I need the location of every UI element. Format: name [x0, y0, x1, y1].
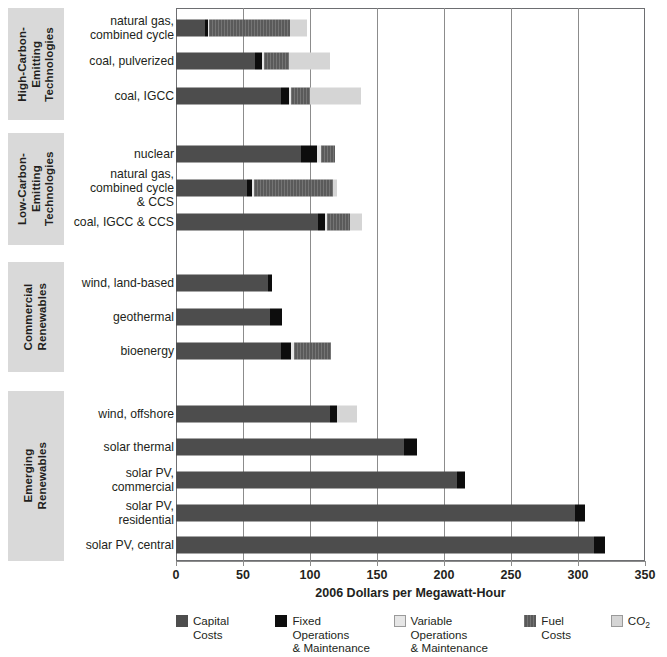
- bar: [176, 180, 337, 197]
- gridline: [578, 8, 579, 561]
- category-label: coal, IGCC & CCS: [14, 215, 174, 229]
- plot-area: [176, 8, 645, 561]
- x-axis-tick: [578, 561, 579, 566]
- chart-root: High-Carbon- Emitting TechnologiesLow-Ca…: [0, 0, 667, 657]
- bar-segment-capital-costs: [176, 180, 247, 197]
- bar: [176, 309, 282, 326]
- x-axis-tick: [444, 561, 445, 566]
- legend-item[interactable]: CO2: [611, 614, 650, 630]
- bar: [176, 275, 272, 292]
- x-axis-tick-label: 100: [300, 568, 321, 582]
- bar-segment-co2: [290, 20, 307, 37]
- bar: [176, 439, 417, 456]
- bar-segment-fixed-om: [575, 505, 584, 522]
- bar: [176, 88, 361, 105]
- bar-segment-capital-costs: [176, 343, 281, 360]
- legend-item[interactable]: Fixed Operations & Maintenance: [275, 614, 376, 655]
- category-label-column: natural gas, combined cyclecoal, pulveri…: [8, 0, 174, 560]
- category-label: coal, IGCC: [14, 89, 174, 103]
- legend-swatch-fuel: [524, 615, 536, 627]
- bar: [176, 20, 307, 37]
- category-label: bioenergy: [14, 344, 174, 358]
- x-axis-tick-label: 350: [635, 568, 656, 582]
- bar-segment-capital-costs: [176, 88, 281, 105]
- legend-swatch-capital: [176, 615, 188, 627]
- bar-segment-fixed-om: [281, 343, 292, 360]
- legend-swatch-co2: [611, 615, 623, 627]
- x-axis-tick: [176, 561, 177, 566]
- bar: [176, 53, 330, 70]
- category-label: solar PV, commercial: [14, 466, 174, 494]
- bar-segment-fuel-costs: [209, 20, 289, 37]
- category-label: geothermal: [14, 310, 174, 324]
- bar-segment-fuel-costs: [264, 53, 288, 70]
- bar-segment-capital-costs: [176, 275, 268, 292]
- gridline: [511, 8, 512, 561]
- legend-item[interactable]: Capital Costs: [176, 614, 258, 641]
- x-axis-tick: [377, 561, 378, 566]
- bar-segment-co2: [337, 406, 357, 423]
- legend-label: CO2: [628, 614, 650, 630]
- bar-segment-fuel-costs: [291, 88, 310, 105]
- x-axis-tick-label: 250: [501, 568, 522, 582]
- bar: [176, 406, 357, 423]
- bar: [176, 214, 362, 231]
- legend-label: Capital Costs: [193, 614, 258, 641]
- bar-segment-co2: [310, 88, 361, 105]
- bar-segment-fuel-costs: [327, 214, 350, 231]
- bar: [176, 472, 465, 489]
- bar-segment-fuel-costs: [254, 180, 333, 197]
- x-axis-tick-label: 200: [434, 568, 455, 582]
- x-axis: 050100150200250300350: [176, 561, 645, 562]
- bar-segment-fixed-om: [268, 275, 272, 292]
- legend-label: Fixed Operations & Maintenance: [292, 614, 376, 655]
- legend-swatch-vom: [394, 615, 406, 627]
- bar: [176, 146, 335, 163]
- category-label: solar PV, residential: [14, 499, 174, 527]
- x-axis-tick: [243, 561, 244, 566]
- bar-segment-fixed-om: [404, 439, 417, 456]
- x-axis-title: 2006 Dollars per Megawatt-Hour: [176, 586, 645, 600]
- bar-segment-fixed-om: [457, 472, 465, 489]
- category-label: nuclear: [14, 147, 174, 161]
- bar-segment-co2: [350, 214, 362, 231]
- bar-segment-capital-costs: [176, 309, 270, 326]
- x-axis-tick: [310, 561, 311, 566]
- bar: [176, 343, 331, 360]
- bar-segment-capital-costs: [176, 472, 457, 489]
- bar-segment-capital-costs: [176, 146, 301, 163]
- bar-segment-capital-costs: [176, 214, 318, 231]
- bar-segment-capital-costs: [176, 439, 404, 456]
- bar-segment-capital-costs: [176, 20, 205, 37]
- bar: [176, 505, 585, 522]
- bar-segment-fixed-om: [301, 146, 317, 163]
- bar-segment-fuel-costs: [294, 343, 332, 360]
- legend: Capital CostsFixed Operations & Maintena…: [176, 614, 667, 655]
- bar-segment-fixed-om: [281, 88, 289, 105]
- category-label: solar PV, central: [14, 538, 174, 552]
- bar-segment-fixed-om: [318, 214, 325, 231]
- x-axis-tick: [511, 561, 512, 566]
- bar-segment-fixed-om: [255, 53, 262, 70]
- category-label: coal, pulverized: [14, 54, 174, 68]
- bar-segment-fixed-om: [270, 309, 282, 326]
- x-axis-tick-label: 300: [568, 568, 589, 582]
- category-label: wind, offshore: [14, 407, 174, 421]
- x-axis-tick-label: 50: [236, 568, 250, 582]
- bar-segment-co2: [333, 180, 337, 197]
- category-label: natural gas, combined cycle & CCS: [14, 167, 174, 209]
- bar-segment-capital-costs: [176, 505, 575, 522]
- bar-segment-fixed-om: [330, 406, 337, 423]
- bar-segment-capital-costs: [176, 406, 330, 423]
- category-label: solar thermal: [14, 440, 174, 454]
- legend-item[interactable]: Fuel Costs: [524, 614, 594, 641]
- category-label: wind, land-based: [14, 276, 174, 290]
- x-axis-tick-label: 150: [367, 568, 388, 582]
- legend-item[interactable]: Variable Operations & Maintenance: [394, 614, 508, 655]
- x-axis-tick-label: 0: [173, 568, 180, 582]
- legend-swatch-fom: [275, 615, 287, 627]
- x-axis-tick: [645, 561, 646, 566]
- bar-segment-fixed-om: [594, 537, 605, 554]
- bar-segment-capital-costs: [176, 537, 594, 554]
- bar: [176, 537, 605, 554]
